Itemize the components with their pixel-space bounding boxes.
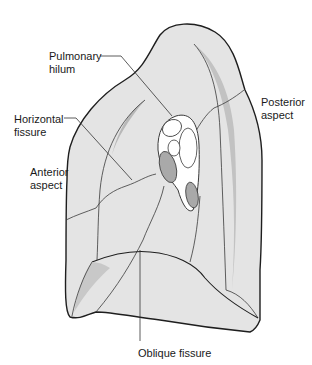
label-line: aspect: [261, 109, 305, 122]
lung-diagram: Pulmonary hilum Horizontal fissure Anter…: [0, 0, 312, 365]
label-line: hilum: [49, 63, 102, 76]
pulmonary-artery: [179, 128, 197, 168]
label-anterior-aspect: Anterior aspect: [30, 166, 69, 192]
label-line: Horizontal: [14, 113, 64, 126]
label-line: Pulmonary: [49, 50, 102, 63]
label-posterior-aspect: Posterior aspect: [261, 96, 305, 122]
label-line: Oblique fissure: [138, 347, 211, 359]
label-oblique-fissure: Oblique fissure: [138, 347, 211, 360]
label-line: Anterior: [30, 166, 69, 179]
label-horizontal-fissure: Horizontal fissure: [14, 113, 64, 139]
label-line: Posterior: [261, 96, 305, 109]
label-line: fissure: [14, 126, 64, 139]
label-pulmonary-hilum: Pulmonary hilum: [49, 50, 102, 76]
label-line: aspect: [30, 179, 69, 192]
